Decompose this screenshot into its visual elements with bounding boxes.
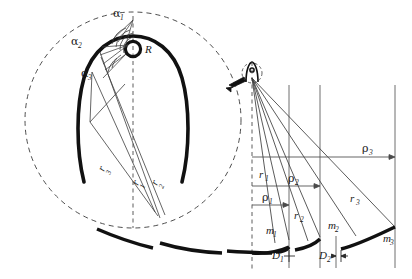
label-D2: D [318, 249, 327, 261]
label-alpha3-sub: 3 [87, 73, 92, 82]
label-alpha2-sub: 2 [78, 41, 82, 50]
label-rho2-sub: 2 [295, 178, 299, 187]
label-r1-sub: 1 [265, 174, 269, 183]
label-rho1-sub: 1 [269, 197, 273, 206]
label-m3-sub: 3 [389, 238, 394, 247]
label-rho3-sub: 3 [368, 148, 373, 157]
label-D2-sub: 2 [327, 255, 331, 264]
label-r1: r [259, 168, 264, 180]
label-rho2: ρ [288, 172, 294, 185]
label-m1-sub: 1 [273, 230, 277, 239]
label-r3: r [350, 192, 355, 204]
label-r2-sub: 2 [300, 215, 304, 224]
label-rho1: ρ [262, 191, 268, 204]
figure-background [0, 0, 412, 279]
label-m2-sub: 2 [335, 225, 339, 234]
label-alpha1-sub: 1 [120, 13, 124, 22]
label-D1-sub: 1 [280, 255, 284, 264]
label-R: R [144, 43, 152, 55]
label-rho3: ρ [362, 142, 368, 155]
label-r3-sub: 3 [355, 198, 360, 207]
technical-diagram: α 1 α 2 α 3 R r 3 r 1 r 2 [0, 0, 412, 279]
label-r2: r [294, 209, 299, 221]
